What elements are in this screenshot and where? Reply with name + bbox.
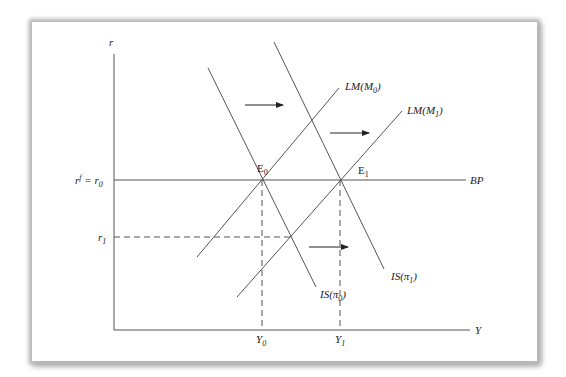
lm0-curve [197,88,339,257]
r0-label: rf = r0 [75,173,103,189]
is0-label: IS(π0) [319,288,346,303]
y-axis-label: r [109,36,114,48]
x-axis-label: Y [475,324,483,336]
y0-label: Y0 [256,333,266,348]
e1-label: E1 [358,164,369,179]
is-lm-bp-diagram: r Y rf = r0 r1 Y0 Y1 LM(M0) LM(M1) IS(π0… [0,0,566,377]
y1-label: Y1 [335,333,345,348]
r1-label: r1 [98,231,106,246]
is1-label: IS(π1) [390,270,417,285]
lm1-label: LM(M1) [406,104,443,119]
e0-label: E0 [257,162,268,177]
bp-label: BP [470,174,484,186]
lm0-label: LM(M0) [344,80,381,95]
